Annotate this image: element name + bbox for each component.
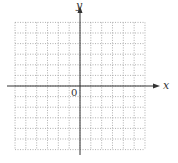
- x-axis-arrow-icon: [153, 84, 160, 89]
- coordinate-grid: [0, 0, 178, 163]
- x-axis-label: x: [163, 80, 169, 91]
- origin-label: 0: [71, 88, 77, 98]
- y-axis-label: y: [76, 0, 82, 11]
